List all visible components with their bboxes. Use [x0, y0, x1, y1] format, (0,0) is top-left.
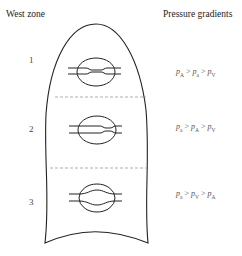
- zone-1-number: 1: [29, 55, 34, 65]
- zone-2-number: 2: [29, 124, 34, 134]
- zone-2-alveolus: [69, 116, 122, 144]
- zone-2-gradient: pa>pA>pV: [176, 122, 215, 133]
- zone-3-number: 3: [29, 197, 34, 207]
- zone-3-alveolus: [69, 184, 122, 212]
- zone-1-alveolus: [68, 58, 121, 86]
- zone-1-gradient: pA>pa>pV: [176, 67, 215, 78]
- zone-3-gradient: pa>pV>pA: [176, 189, 215, 200]
